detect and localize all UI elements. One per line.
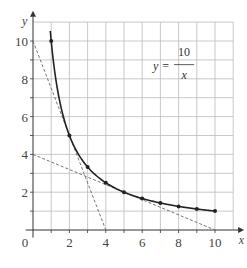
x-tick-label: 10	[209, 235, 222, 250]
x-axis-label: x	[238, 233, 245, 247]
y-tick-label: 8	[22, 72, 29, 87]
equation-lhs: y =	[152, 59, 169, 73]
x-tick-label: 6	[139, 235, 146, 250]
data-point	[195, 207, 199, 211]
x-tick-label: 0	[22, 235, 29, 250]
data-point	[104, 181, 108, 185]
data-point	[86, 165, 90, 169]
equation-denominator: x	[180, 68, 187, 82]
y-axis-arrow-icon	[30, 11, 36, 17]
y-axis-label: y	[21, 14, 28, 28]
x-tick-label: 4	[103, 235, 110, 250]
data-point	[67, 134, 71, 138]
y-tick-label: 2	[22, 185, 29, 200]
data-point	[140, 196, 144, 200]
y-tick-label: 6	[22, 110, 29, 125]
x-tick-label: 8	[175, 235, 182, 250]
data-point	[177, 204, 181, 208]
x-tick-label: 2	[66, 235, 73, 250]
y-tick-label: 4	[22, 147, 29, 162]
data-point	[49, 39, 53, 43]
chart: 0246810246810xyy =10x	[0, 0, 247, 268]
data-point	[122, 190, 126, 194]
data-point	[158, 201, 162, 205]
data-point	[213, 209, 217, 213]
curve-y-equals-10-over-x	[50, 31, 215, 211]
y-tick-label: 10	[15, 34, 28, 49]
equation-numerator: 10	[178, 45, 190, 59]
